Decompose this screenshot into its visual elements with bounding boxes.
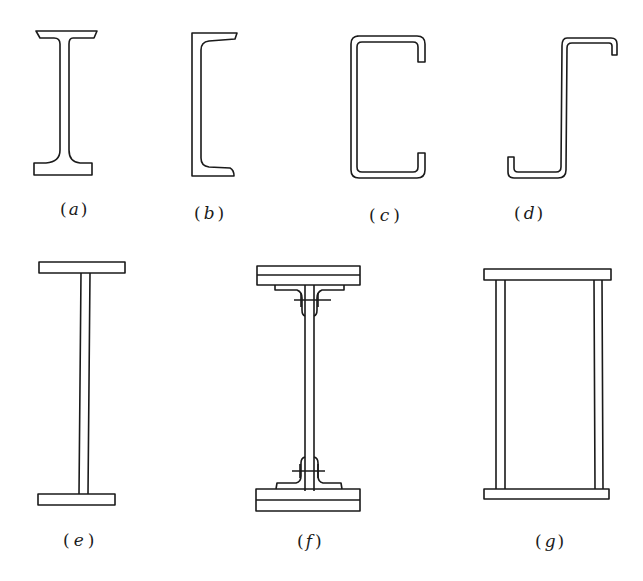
section-d-lipped-z — [508, 38, 617, 178]
section-e-welded-i — [38, 262, 125, 505]
section-a-i-beam — [34, 31, 97, 175]
label-c: (c) — [369, 205, 400, 225]
label-e: (e) — [63, 530, 94, 550]
label-d: (d) — [514, 203, 543, 223]
cross-sections-diagram: (a) (b) (c) (d) (e) (f) (g) — [0, 0, 643, 581]
section-g-box — [484, 269, 611, 499]
section-b-channel — [192, 33, 237, 176]
section-c-lipped-channel — [351, 36, 425, 178]
label-b: (b) — [194, 203, 224, 223]
label-f: (f) — [297, 531, 322, 551]
section-f-riveted-i — [256, 266, 360, 511]
label-g: (g) — [535, 531, 564, 551]
label-a: (a) — [60, 199, 87, 219]
